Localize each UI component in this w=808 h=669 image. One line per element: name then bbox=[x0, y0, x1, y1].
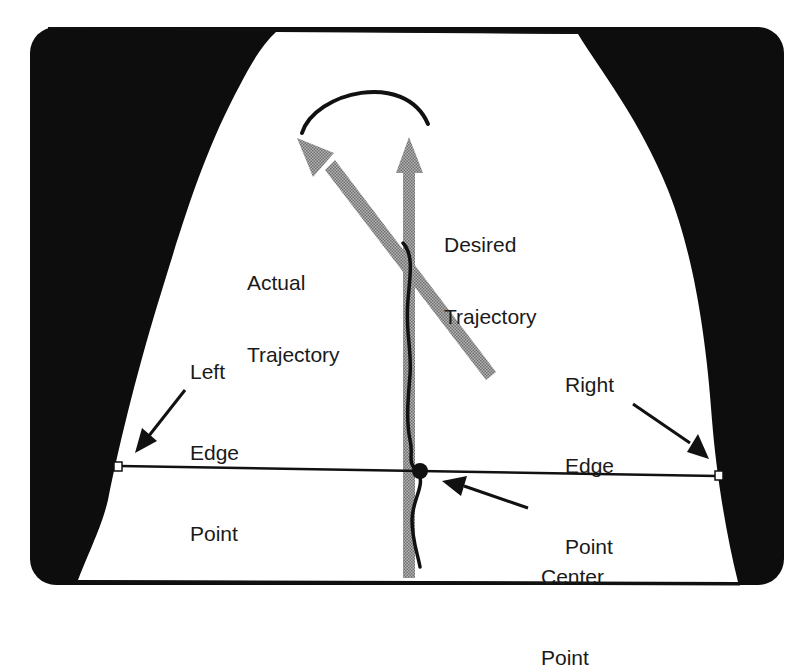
actual-trajectory-label-line1: Actual bbox=[247, 271, 340, 295]
right-edge-point-label-line1: Right bbox=[565, 371, 614, 398]
actual-trajectory-label: Actual Trajectory bbox=[247, 223, 340, 391]
desired-trajectory-label-line1: Desired bbox=[444, 233, 537, 257]
right-edge-point-marker bbox=[715, 471, 723, 480]
left-edge-point-label-line1: Left bbox=[190, 358, 239, 385]
center-point-marker bbox=[412, 463, 428, 479]
left-edge-point-label-line3: Point bbox=[190, 520, 239, 547]
center-point-label-line2: Point bbox=[541, 644, 604, 669]
actual-trajectory-label-line2: Trajectory bbox=[247, 343, 340, 367]
desired-trajectory-label-line2: Trajectory bbox=[444, 305, 537, 329]
right-edge-point-label-line2: Edge bbox=[565, 452, 614, 479]
left-edge-point-marker bbox=[114, 462, 122, 471]
left-edge-point-label-line2: Edge bbox=[190, 439, 239, 466]
desired-trajectory-label: Desired Trajectory bbox=[444, 185, 537, 353]
center-point-label: Center Point bbox=[541, 509, 604, 669]
left-edge-point-label: Left Edge Point bbox=[190, 304, 239, 574]
center-point-label-line1: Center bbox=[541, 563, 604, 590]
road-bottom-edge bbox=[76, 582, 740, 584]
